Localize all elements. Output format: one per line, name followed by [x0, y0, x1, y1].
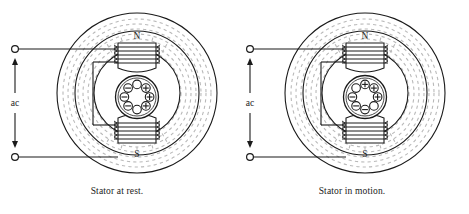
pole-south-left: S	[114, 114, 160, 159]
diagram-left: N S	[0, 0, 234, 186]
panel-stator-at-rest: N S	[0, 0, 234, 214]
panel-stator-in-motion: N S	[235, 0, 469, 214]
terminal-top	[247, 46, 254, 53]
diagram-right: N S	[235, 0, 469, 186]
ac-source-left: ac	[11, 46, 118, 161]
terminal-bottom	[12, 154, 19, 161]
rotor-conductor-empty	[133, 105, 142, 114]
ac-label: ac	[11, 98, 19, 108]
terminal-bottom	[247, 154, 254, 161]
motor-figure: N S	[0, 0, 469, 214]
terminal-top	[12, 46, 19, 53]
pole-label-north: N	[134, 31, 141, 41]
pole-label-south: S	[134, 149, 139, 159]
rotor-conductor-empty	[370, 102, 379, 111]
ac-label: ac	[246, 98, 254, 108]
rotor-right	[344, 76, 387, 119]
pole-south-right: S	[342, 114, 388, 159]
pole-label-north: N	[362, 31, 369, 41]
pole-north-right: N	[342, 31, 388, 72]
pole-label-south: S	[362, 149, 367, 159]
rotor-conductor-empty	[352, 84, 361, 93]
rotor-conductor-empty	[133, 80, 142, 89]
caption-left: Stator at rest.	[0, 186, 234, 196]
rotor-left	[116, 76, 159, 119]
ac-source-right: ac	[246, 46, 346, 161]
caption-right: Stator in motion.	[235, 186, 469, 196]
pole-north-left: N	[114, 31, 160, 72]
